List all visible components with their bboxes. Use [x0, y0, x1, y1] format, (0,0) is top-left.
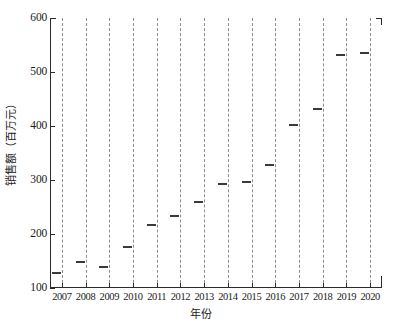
x-tick-2009	[109, 283, 110, 288]
x-tick-2020	[370, 283, 371, 288]
data-point-2016	[265, 164, 274, 166]
x-tick-2015	[252, 283, 253, 288]
y-tick-200	[50, 234, 55, 235]
data-point-2019	[336, 54, 345, 56]
x-tick-2010	[133, 283, 134, 288]
x-tick-2013	[204, 283, 205, 288]
data-point-2018	[313, 108, 322, 110]
gridline-2007	[62, 18, 63, 288]
x-tick-2014	[228, 283, 229, 288]
axis-right-bottom-cap	[381, 276, 382, 288]
gridline-2020	[370, 18, 371, 288]
gridline-2009	[109, 18, 110, 288]
data-point-2017	[289, 124, 298, 126]
gridline-2011	[157, 18, 158, 288]
gridline-2019	[346, 18, 347, 288]
gridline-2010	[133, 18, 134, 288]
x-tick-label-2020: 2020	[350, 291, 390, 303]
y-tick-300	[50, 180, 55, 181]
data-point-2020	[360, 52, 369, 54]
x-tick-2007	[62, 283, 63, 288]
x-tick-2016	[275, 283, 276, 288]
x-axis-title: 年份	[0, 309, 401, 321]
x-tick-2018	[323, 283, 324, 288]
gridline-2008	[86, 18, 87, 288]
gridline-2012	[180, 18, 181, 288]
data-point-2010	[123, 246, 132, 248]
data-point-2009	[99, 266, 108, 268]
y-tick-500	[50, 72, 55, 73]
gridline-2015	[252, 18, 253, 288]
x-tick-2019	[346, 283, 347, 288]
gridline-2018	[323, 18, 324, 288]
gridline-2016	[275, 18, 276, 288]
data-point-2014	[218, 183, 227, 185]
chart-figure: 100200300400500600 200720082009201020112…	[0, 0, 401, 333]
data-point-2011	[147, 224, 156, 226]
gridline-2017	[299, 18, 300, 288]
x-tick-2011	[157, 283, 158, 288]
data-point-2012	[170, 215, 179, 217]
y-tick-label-600: 600	[7, 12, 47, 24]
x-tick-2008	[86, 283, 87, 288]
axis-right-upper-segment	[381, 18, 382, 25]
plot-area	[50, 18, 382, 288]
data-point-2008	[76, 261, 85, 263]
y-axis-title: 销售额（百万元）	[6, 82, 18, 202]
data-point-2007	[52, 272, 61, 274]
x-tick-2012	[180, 283, 181, 288]
data-point-2013	[194, 201, 203, 203]
gridline-2014	[228, 18, 229, 288]
y-tick-400	[50, 126, 55, 127]
gridline-2013	[204, 18, 205, 288]
y-tick-100	[50, 288, 55, 289]
y-tick-label-200: 200	[7, 228, 47, 240]
data-point-2015	[242, 181, 251, 183]
x-tick-2017	[299, 283, 300, 288]
y-tick-label-500: 500	[7, 66, 47, 78]
y-tick-600	[50, 18, 55, 19]
